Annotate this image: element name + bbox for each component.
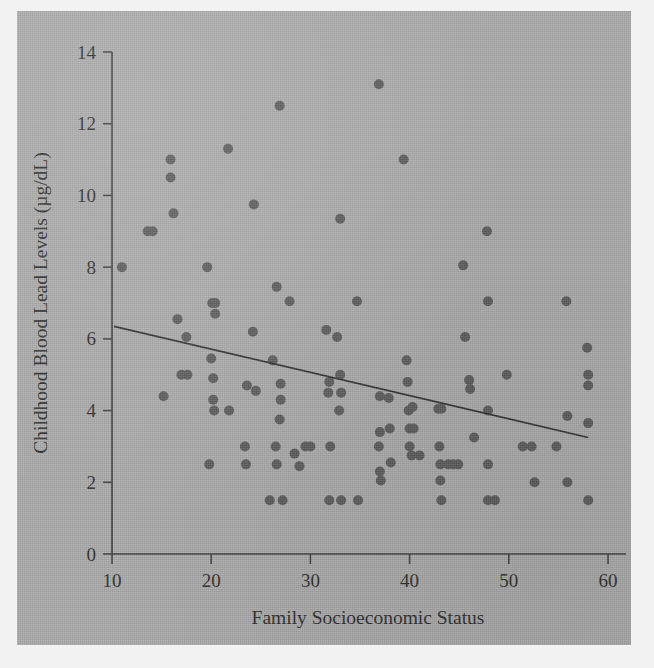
y-tick-label-12: 12	[77, 113, 96, 134]
data-point	[483, 459, 493, 469]
data-point	[166, 155, 176, 165]
data-point	[374, 79, 384, 89]
data-point	[336, 388, 346, 398]
y-tick-label-10: 10	[77, 185, 96, 206]
data-point	[272, 282, 282, 292]
data-point	[117, 262, 127, 272]
tick-marks-group	[103, 52, 608, 564]
data-point	[278, 495, 288, 505]
data-point	[530, 477, 540, 487]
data-point	[583, 418, 593, 428]
data-point	[405, 441, 415, 451]
data-point	[275, 415, 285, 425]
y-tick-label-4: 4	[87, 400, 97, 421]
data-point	[458, 260, 468, 270]
data-point	[469, 432, 479, 442]
data-point	[325, 441, 335, 451]
data-point	[435, 475, 445, 485]
data-point	[332, 332, 342, 342]
data-point	[436, 495, 446, 505]
scatter-plot: 02468101214102030405060 Family Socioecon…	[17, 11, 631, 645]
data-point	[241, 459, 251, 469]
x-tick-label-20: 20	[202, 570, 221, 591]
x-tick-label-10: 10	[103, 570, 122, 591]
data-point	[482, 226, 492, 236]
data-point	[490, 495, 500, 505]
data-point	[527, 441, 537, 451]
data-point	[518, 441, 528, 451]
data-point	[583, 370, 593, 380]
scanned-figure-region: 02468101214102030405060 Family Socioecon…	[17, 11, 631, 645]
data-point	[265, 495, 275, 505]
data-point	[305, 441, 315, 451]
data-point	[249, 199, 259, 209]
data-point	[409, 424, 419, 434]
data-point	[562, 411, 572, 421]
data-point	[465, 384, 475, 394]
data-point	[453, 459, 463, 469]
data-point	[209, 406, 219, 416]
data-point	[206, 354, 216, 364]
y-tick-label-14: 14	[77, 42, 97, 63]
data-point	[275, 101, 285, 111]
data-point	[385, 424, 395, 434]
data-point	[223, 144, 233, 154]
data-point	[408, 402, 418, 412]
data-point	[224, 406, 234, 416]
data-point	[335, 214, 345, 224]
data-point	[483, 296, 493, 306]
data-point	[415, 450, 425, 460]
x-axis-title: Family Socioeconomic Status	[252, 607, 485, 628]
data-point	[436, 404, 446, 414]
data-point	[375, 427, 385, 437]
data-point	[148, 226, 158, 236]
data-point	[204, 459, 214, 469]
data-point	[272, 459, 282, 469]
data-point	[375, 391, 385, 401]
tick-labels-group: 02468101214102030405060	[77, 42, 618, 592]
data-point	[375, 467, 385, 477]
data-point	[182, 370, 192, 380]
data-point	[460, 332, 470, 342]
data-point	[583, 495, 593, 505]
data-point	[208, 395, 218, 405]
x-tick-label-40: 40	[400, 570, 419, 591]
data-point	[334, 406, 344, 416]
y-axis-title: Childhood Blood Lead Levels (µg/dL)	[30, 152, 52, 454]
regression-line	[114, 326, 588, 437]
data-point	[271, 441, 281, 451]
data-point	[399, 155, 409, 165]
data-point	[402, 355, 412, 365]
data-point	[294, 461, 304, 471]
data-points-group	[117, 79, 593, 505]
data-point	[166, 173, 176, 183]
data-point	[285, 296, 295, 306]
data-point	[210, 309, 220, 319]
data-point	[583, 380, 593, 390]
data-point	[376, 475, 386, 485]
trend-line-group	[114, 326, 588, 437]
y-tick-label-2: 2	[87, 472, 97, 493]
data-point	[384, 393, 394, 403]
data-point	[202, 262, 212, 272]
data-point	[248, 327, 258, 337]
data-point	[374, 441, 384, 451]
data-point	[276, 395, 286, 405]
data-point	[324, 495, 334, 505]
data-point	[336, 495, 346, 505]
figure-page: 02468101214102030405060 Family Socioecon…	[0, 0, 654, 668]
data-point	[582, 343, 592, 353]
data-point	[353, 495, 363, 505]
data-point	[251, 386, 261, 396]
data-point	[386, 458, 396, 468]
x-tick-label-50: 50	[499, 570, 518, 591]
x-tick-label-60: 60	[599, 570, 618, 591]
x-tick-label-30: 30	[301, 570, 320, 591]
data-point	[240, 441, 250, 451]
data-point	[502, 370, 512, 380]
data-point	[551, 441, 561, 451]
y-tick-label-6: 6	[87, 328, 97, 349]
data-point	[321, 325, 331, 335]
data-point	[403, 377, 413, 387]
data-point	[172, 314, 182, 324]
